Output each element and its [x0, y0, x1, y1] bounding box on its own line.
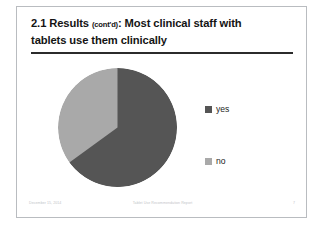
- pie-svg: [58, 68, 177, 187]
- slide-canvas: 2.1 Results (cont'd): Most clinical staf…: [16, 6, 307, 218]
- pie-graphic: [58, 68, 177, 187]
- legend-swatch-yes: [205, 106, 212, 113]
- title-divider: [31, 52, 293, 54]
- footer-date: December 15, 2014: [29, 201, 61, 205]
- title-text-post: : Most clinical staff with: [118, 17, 242, 29]
- legend-label-yes: yes: [216, 105, 229, 114]
- title-line-1: 2.1 Results (cont'd): Most clinical staf…: [31, 16, 293, 33]
- legend-item-no: no: [205, 157, 226, 166]
- footer-page-number: 7: [293, 201, 295, 205]
- footer-document-title: Tablet Use Recommendation Report: [133, 201, 193, 205]
- legend-item-yes: yes: [205, 105, 229, 114]
- slide-footer: December 15, 2014 Tablet Use Recommendat…: [17, 201, 308, 210]
- pie-chart: yes no: [17, 59, 308, 199]
- legend-label-no: no: [216, 157, 226, 166]
- title-text-contd: (cont'd): [92, 20, 118, 29]
- chart-legend: yes no: [205, 59, 297, 199]
- legend-swatch-no: [205, 158, 212, 165]
- page-title: 2.1 Results (cont'd): Most clinical staf…: [31, 16, 293, 47]
- title-line-2: tablets use them clinically: [31, 33, 293, 48]
- title-text-pre: 2.1 Results: [31, 17, 92, 29]
